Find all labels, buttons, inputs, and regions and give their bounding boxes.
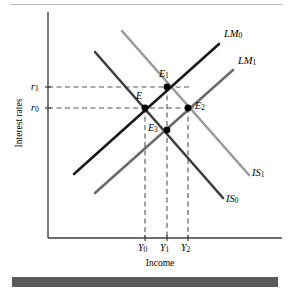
point-label-e-base: E [136, 90, 142, 101]
point-marker-e [142, 105, 149, 112]
bottom-solid-bar [12, 277, 278, 287]
x-tick-label-y2: Y2 [181, 242, 190, 254]
curve-label-lm1-base: LM [238, 55, 253, 66]
point-label-e1-sub: 1 [165, 71, 169, 80]
y-tick-label-r0: r0 [31, 102, 39, 114]
figure-container: Interest rates Income r1 r0 Y0 Y1 Y2 LM0… [0, 0, 290, 290]
x-tick-label-y2-sub: 2 [187, 245, 191, 254]
point-marker-e1 [164, 84, 171, 91]
x-axis-title: Income [120, 258, 200, 268]
curve-label-lm1-sub: 1 [253, 58, 257, 67]
point-label-e1: E1 [159, 68, 169, 80]
point-label-e3: E3 [148, 122, 158, 134]
curve-label-is0: IS0 [226, 193, 239, 205]
x-tick-label-y1: Y1 [160, 242, 169, 254]
curve-label-is1: IS1 [252, 167, 265, 179]
point-label-e2: E2 [195, 100, 205, 112]
point-label-e2-sub: 2 [201, 103, 205, 112]
y-tick-label-r1: r1 [31, 81, 39, 93]
curve-label-lm0-base: LM [224, 28, 239, 39]
point-marker-e2 [185, 105, 192, 112]
point-label-e: E [136, 90, 142, 102]
point-label-e3-sub: 3 [154, 125, 158, 134]
x-tick-label-y0: Y0 [138, 242, 147, 254]
y-axis-title: Interest rates [14, 83, 24, 163]
curve-label-lm0: LM0 [224, 28, 242, 40]
curve-label-is1-base: IS [252, 167, 261, 178]
curve-label-is1-sub: 1 [261, 170, 265, 179]
curve-label-lm1: LM1 [238, 55, 256, 67]
point-marker-e3 [164, 127, 171, 134]
curve-label-lm0-sub: 0 [239, 31, 243, 40]
curve-label-is0-base: IS [226, 193, 235, 204]
y-tick-label-r1-sub: 1 [35, 84, 39, 93]
curve-label-is0-sub: 0 [235, 196, 239, 205]
x-tick-label-y0-sub: 0 [144, 245, 148, 254]
x-tick-label-y1-sub: 1 [166, 245, 170, 254]
y-tick-label-r0-sub: 0 [35, 105, 39, 114]
